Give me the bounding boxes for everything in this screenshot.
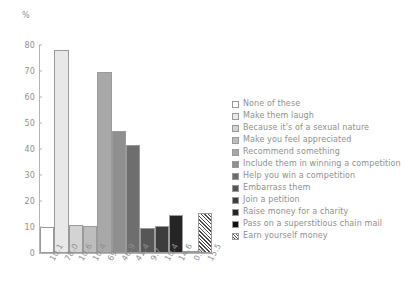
legend-item-label: Recommend something [243, 147, 340, 158]
legend-item[interactable]: Include them in winning a competition [232, 159, 406, 170]
y-axis-tick-label: 40 [13, 145, 35, 154]
y-axis-tick-mark [39, 45, 42, 46]
legend-swatch-icon [232, 113, 239, 120]
y-axis-tick-mark [39, 97, 42, 98]
y-axis-tick-label: 0 [13, 249, 35, 258]
legend-swatch-icon [232, 197, 239, 204]
y-axis-tick-mark [39, 123, 42, 124]
legend-item-label: Include them in winning a competition [243, 159, 401, 170]
y-axis-ticks: 01020304050607080 [11, 45, 35, 253]
legend-swatch-icon [232, 221, 239, 228]
legend-item[interactable]: Pass on a superstitious chain mail [232, 219, 406, 230]
legend-item[interactable]: None of these [232, 99, 406, 110]
legend-item[interactable]: Earn yourself money [232, 231, 406, 242]
legend-item-label: Embarrass them [243, 183, 310, 194]
legend-swatch-icon [232, 233, 239, 240]
y-axis-tick-mark [39, 149, 42, 150]
y-axis-tick-mark [39, 253, 42, 254]
bar [112, 131, 126, 253]
y-axis-tick-mark [39, 201, 42, 202]
legend-item[interactable]: Embarrass them [232, 183, 406, 194]
legend-item[interactable]: Raise money for a charity [232, 207, 406, 218]
legend-swatch-icon [232, 137, 239, 144]
chart-legend: None of theseMake them laughBecause it's… [232, 99, 406, 243]
legend-item-label: Because it's of a sexual nature [243, 123, 369, 134]
bar [126, 145, 140, 253]
legend-item-label: Make them laugh [243, 111, 314, 122]
legend-item-label: None of these [243, 99, 300, 110]
legend-swatch-icon [232, 161, 239, 168]
legend-item-label: Earn yourself money [243, 231, 328, 242]
legend-item-label: Make you feel appreciated [243, 135, 352, 146]
plot-area [40, 45, 212, 253]
legend-item[interactable]: Make them laugh [232, 111, 406, 122]
legend-item[interactable]: Make you feel appreciated [232, 135, 406, 146]
y-axis-tick-label: 80 [13, 41, 35, 50]
bar [97, 72, 111, 253]
legend-swatch-icon [232, 209, 239, 216]
legend-item-label: Join a petition [243, 195, 300, 206]
legend-item[interactable]: Because it's of a sexual nature [232, 123, 406, 134]
bar [54, 50, 68, 253]
legend-swatch-icon [232, 101, 239, 108]
y-axis-tick-label: 70 [13, 67, 35, 76]
legend-item-label: Pass on a superstitious chain mail [243, 219, 382, 230]
y-axis-tick-label: 50 [13, 119, 35, 128]
y-axis-tick-label: 60 [13, 93, 35, 102]
legend-swatch-icon [232, 185, 239, 192]
y-axis-tick-mark [39, 227, 42, 228]
legend-item-label: Raise money for a charity [243, 207, 348, 218]
bar-chart: % 01020304050607080 None of theseMake th… [0, 0, 407, 303]
legend-swatch-icon [232, 173, 239, 180]
y-axis-tick-mark [39, 71, 42, 72]
y-axis-unit-label: % [22, 11, 30, 20]
y-axis-tick-label: 20 [13, 197, 35, 206]
legend-item[interactable]: Join a petition [232, 195, 406, 206]
legend-swatch-icon [232, 149, 239, 156]
y-axis-tick-label: 10 [13, 223, 35, 232]
y-axis-tick-label: 30 [13, 171, 35, 180]
y-axis-tick-mark [39, 175, 42, 176]
legend-item[interactable]: Recommend something [232, 147, 406, 158]
legend-swatch-icon [232, 125, 239, 132]
legend-item-label: Help you win a competition [243, 171, 355, 182]
legend-item[interactable]: Help you win a competition [232, 171, 406, 182]
